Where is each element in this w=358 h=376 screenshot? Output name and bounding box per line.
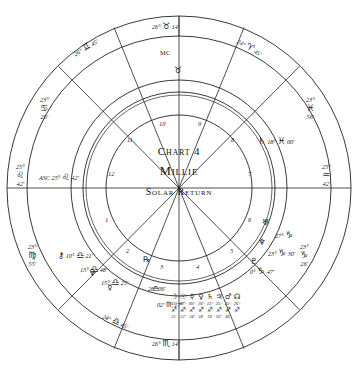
venus-stellium-icon: ♀ [197, 292, 205, 301]
inner-taurus-icon: ♉ [174, 66, 182, 75]
chiron-degree: 10° [66, 252, 75, 259]
pluto-icon: ♇ [250, 257, 258, 266]
cusp-label-pisces: 23° ♓ 56' [306, 96, 315, 120]
saturn-stellium-icon: ♄ [206, 292, 214, 301]
chiron-icon: ⚷ [58, 250, 64, 260]
stellium-minute-7: 46' [224, 314, 232, 319]
house-number-6: 6 [248, 216, 251, 223]
cusp-capricorn-minute: 26' [301, 260, 309, 267]
cusp-label-dsc: 25° ♒ 42' [322, 163, 331, 187]
house-number-10: 10 [159, 120, 165, 127]
mc-label: MC [160, 49, 171, 56]
planet-pluto: 0° ♑ 47' [250, 266, 274, 276]
pisces-icon: ♓ [306, 103, 314, 113]
sagittarius-icon-2: ♐ [179, 306, 187, 314]
sagittarius-icon-8: ♐ [233, 306, 241, 314]
cusp-mc-minute: 14' [172, 23, 180, 30]
cusp-label-ic: 26° ♏ 14' [152, 338, 179, 348]
neptune-sign-capricorn-icon: ♑ [278, 248, 286, 258]
chart-subject-name: Millie [160, 164, 198, 179]
planet-chiron: ⚷ 10° ♎ 21' [58, 250, 93, 260]
cusp-leo-minute: 42' [17, 180, 25, 187]
aquarius-icon: ♒ [322, 170, 330, 180]
scorpio-icon: ♏ [162, 338, 170, 348]
mercury-stellium-icon: ☿ [188, 292, 196, 301]
stellium-glyph-row: ☽ ☉ ☿ ♀ ♄ ♃ ♂ ☊ [170, 292, 241, 301]
taurus-icon: ♉ [162, 21, 170, 31]
house-number-9: 9 [198, 120, 201, 127]
leo-icon: ♌ [62, 172, 70, 182]
stellium-sign-row: ♐ ♐ ♐ ♐ ♐ ♐ ♐ ♐ [170, 306, 241, 314]
jupiter-icon: ♃ [215, 292, 223, 301]
capricorn-icon: ♑ [300, 250, 308, 260]
mercury-sign-libra-icon: ♎ [111, 277, 119, 287]
mercury-minute: 25' [121, 279, 129, 286]
cusp-capricorn-degree: 23° [300, 243, 309, 250]
saturn-icon: ♄ [258, 136, 266, 146]
neptune-degree: 23° [268, 250, 277, 257]
house-number-1: 1 [105, 216, 108, 223]
cusp-label-capricorn: 23° ♑ 26' [300, 243, 309, 267]
house-number-11: 11 [127, 136, 133, 143]
stellium-minute-5: 18' [206, 314, 214, 319]
house-number-2: 2 [126, 247, 129, 254]
cusp-label-mc: 26° ♉ 14' [152, 21, 179, 31]
house-number-7: 7 [248, 170, 251, 177]
house-number-8: 8 [231, 136, 234, 143]
cusp-ic-degree: 26° [152, 340, 161, 347]
chart-center-block: Chart 4 Millie Solar Return [106, 140, 252, 202]
libra-secondary-degree: 26° [148, 285, 157, 292]
stellium-minute-2: 22' [179, 314, 187, 319]
pluto-minute: 47' [267, 268, 275, 275]
cusp-mc-degree: 26° [152, 23, 161, 30]
uranus-degree: 27° [275, 232, 284, 239]
sun-icon: ☉ [179, 292, 187, 301]
mercury-icon: ☿ [107, 283, 112, 292]
stellium-minute-3: 34' [188, 314, 196, 319]
saturn-sign-pisces-icon: ♓ [277, 136, 285, 146]
chart-title: Chart 4 [158, 145, 200, 157]
planet-neptune: 23° ♑ 30' [268, 248, 295, 258]
cusp-virgo-degree: 23° [28, 243, 37, 250]
house-number-4: 4 [196, 263, 199, 270]
node-icon: ☊ [233, 292, 241, 301]
cusp-label-libra-secondary: 26° 06' [148, 285, 166, 292]
house-number-5: 5 [230, 247, 233, 254]
cusp-pisces-degree: 23° [306, 96, 315, 103]
stellium-minute-8 [233, 314, 241, 319]
cusp-leo-degree: 25° [16, 163, 25, 170]
cusp-label-virgo: 23° ♍ 55' [28, 243, 37, 267]
sagittarius-icon-1: ♐ [170, 306, 178, 314]
cusp-ic-minute: 14' [172, 340, 180, 347]
cusp-cancer-degree: 23° [40, 96, 49, 103]
asc-inline-label: ASC 25° ♌ 42' [39, 172, 79, 182]
virgo-icon: ♍ [28, 250, 36, 260]
stellium-minute-6: 02' [215, 314, 223, 319]
neptune-icon: ♆ [258, 238, 266, 247]
asc-label-text: ASC 25° [39, 174, 60, 181]
chiron-minute: 21' [85, 252, 93, 259]
saturn-degree: 18° [267, 138, 276, 145]
moon-icon: ☽ [170, 292, 178, 301]
mars-icon: ♂ [224, 292, 232, 301]
cusp-label-cancer: 23° ♋ 26' [40, 96, 49, 120]
chiron-sign-libra-icon: ♎ [76, 250, 84, 260]
planet-uranus: 27° ♑ [275, 230, 293, 240]
sagittarius-icon-7: ♐ [224, 306, 232, 314]
neptune-minute: 30' [288, 250, 296, 257]
house-number-3: 3 [160, 263, 163, 270]
cancer-icon: ♋ [40, 103, 48, 113]
uranus-icon: ♅ [262, 218, 270, 227]
venus-icon: ♀ [89, 268, 95, 277]
saturn-minute: 00' [287, 138, 295, 145]
stellium-minute-row: 31' 22' 34' 38' 18' 02' 46' [170, 314, 241, 319]
uranus-sign-capricorn-icon: ♑ [285, 230, 293, 240]
sagittarius-icon-6: ♐ [215, 306, 223, 314]
retrograde-icon: ℞ [143, 256, 150, 264]
libra-secondary-minute: 06' [158, 285, 166, 292]
cusp-pisces-minute: 56' [307, 113, 315, 120]
sagittarius-icon-5: ♐ [206, 306, 214, 314]
cusp-virgo-minute: 55' [29, 260, 37, 267]
house-number-12: 12 [108, 170, 114, 177]
stellium-minute-1: 31' [170, 314, 178, 319]
